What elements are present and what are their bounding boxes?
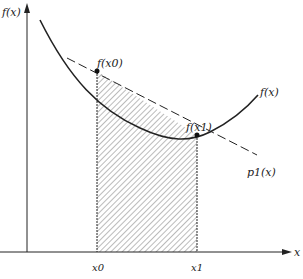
shaded-area: [97, 71, 197, 252]
point0-label: f(x0): [96, 57, 123, 70]
curve-label: f(x): [259, 86, 279, 99]
tick-x0-label: x0: [92, 262, 105, 273]
diagram-canvas: f(x) x f(x) p1(x) f(x0) f(x1) x0 x1: [0, 0, 303, 279]
x-axis-arrow-icon: [282, 249, 292, 255]
tick-x1-label: x1: [191, 262, 203, 273]
line-label: p1(x): [247, 166, 276, 179]
y-axis-arrow-icon: [24, 3, 30, 13]
trapezoid-rule-diagram: f(x) x f(x) p1(x) f(x0) f(x1) x0 x1: [0, 0, 303, 279]
x-axis-label: x: [294, 246, 301, 259]
y-axis-label: f(x): [1, 6, 21, 19]
point1-label: f(x1): [185, 121, 212, 134]
